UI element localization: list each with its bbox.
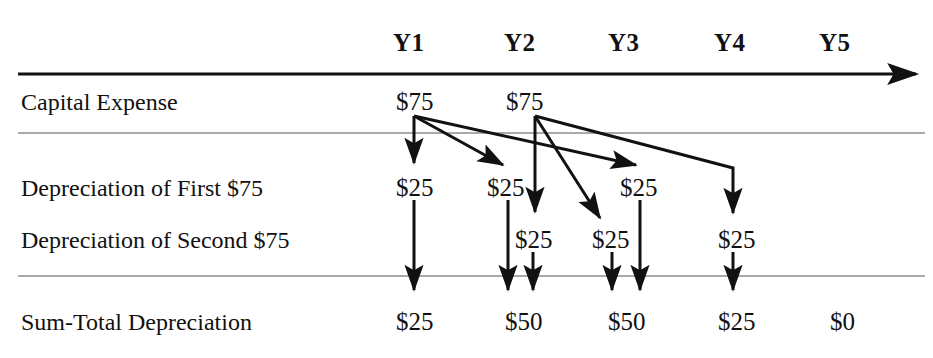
cell-depreciation-second-y4: $25 (718, 227, 756, 252)
year-label-y4: Y4 (714, 30, 746, 55)
flow-second75-to-y3 (535, 116, 600, 218)
year-label-y1: Y1 (393, 30, 425, 55)
cell-depreciation-first-y1: $25 (396, 175, 434, 200)
cell-depreciation-first-y3: $25 (620, 175, 658, 200)
cell-sum-total-y5: $0 (830, 309, 855, 334)
cell-capital-expense-y2: $75 (506, 89, 544, 114)
year-label-y3: Y3 (608, 30, 640, 55)
row-label-depreciation-first: Depreciation of First $75 (21, 176, 263, 200)
row-label-capital-expense: Capital Expense (21, 90, 178, 114)
row-label-depreciation-second: Depreciation of Second $75 (21, 228, 290, 252)
cell-capital-expense-y1: $75 (396, 89, 434, 114)
cell-depreciation-second-y3: $25 (592, 227, 630, 252)
flow-first75-to-y3 (414, 116, 636, 165)
row-label-sum-total: Sum-Total Depreciation (21, 310, 252, 334)
cell-sum-total-y1: $25 (396, 309, 434, 334)
cell-depreciation-second-y2: $25 (515, 227, 553, 252)
year-label-y5: Y5 (819, 30, 851, 55)
year-label-y2: Y2 (504, 30, 536, 55)
flow-first75-to-y2 (414, 116, 503, 165)
cell-sum-total-y3: $50 (608, 309, 646, 334)
depreciation-timeline-diagram: Y1 Y2 Y3 Y4 Y5 Capital Expense Depreciat… (0, 0, 933, 358)
cell-sum-total-y4: $25 (718, 309, 756, 334)
cell-depreciation-first-y2: $25 (487, 175, 525, 200)
cell-sum-total-y2: $50 (505, 309, 543, 334)
